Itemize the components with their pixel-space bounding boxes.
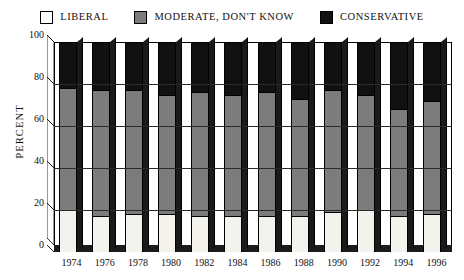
legend-label-liberal: LIBERAL (60, 12, 108, 23)
bar-face-1976 (92, 42, 110, 252)
bar-segment-moderate-1984 (225, 95, 241, 217)
bar-1982[interactable] (191, 42, 209, 252)
x-tick-label-1996: 1996 (426, 258, 446, 268)
chart-bars (54, 42, 452, 252)
x-axis-labels: 1974197619781980198219841986198819901992… (54, 258, 452, 274)
bar-face-1978 (125, 42, 143, 252)
x-tick-label-1974: 1974 (62, 258, 82, 268)
bar-side-1988 (309, 37, 315, 252)
bar-segment-liberal-1996 (424, 214, 440, 252)
x-tick-label-1978: 1978 (128, 258, 148, 268)
bar-1986[interactable] (258, 42, 276, 252)
bar-segment-liberal-1974 (60, 210, 76, 252)
x-tick-label-1994: 1994 (393, 258, 413, 268)
legend-label-conservative: CONSERVATIVE (340, 12, 424, 23)
bar-segment-liberal-1976 (93, 216, 109, 252)
bar-segment-conservative-1994 (391, 42, 407, 109)
bar-segment-moderate-1982 (192, 92, 208, 216)
bar-segment-conservative-1980 (159, 42, 175, 95)
y-axis-title: PERCENT (14, 87, 25, 177)
bar-side-1992 (375, 37, 381, 252)
bar-side-1974 (77, 37, 83, 252)
bar-face-1992 (357, 42, 375, 252)
bar-1974[interactable] (59, 42, 77, 252)
bar-segment-conservative-1978 (126, 42, 142, 90)
bar-1978[interactable] (125, 42, 143, 252)
bar-face-1994 (390, 42, 408, 252)
y-tick-label-60: 60 (34, 114, 44, 124)
y-tick-100 (47, 35, 55, 45)
bar-segment-moderate-1994 (391, 109, 407, 216)
bar-face-1974 (59, 42, 77, 252)
bar-segment-moderate-1996 (424, 101, 440, 214)
chart-legend: LIBERAL MODERATE, DON'T KNOW CONSERVATIV… (0, 6, 464, 28)
y-tick-label-0: 0 (39, 240, 44, 250)
bar-segment-liberal-1982 (192, 216, 208, 252)
legend-item-moderate: MODERATE, DON'T KNOW (134, 11, 294, 24)
bar-segment-moderate-1990 (325, 90, 341, 212)
bar-segment-conservative-1974 (60, 42, 76, 88)
bar-segment-liberal-1994 (391, 216, 407, 252)
bar-1980[interactable] (158, 42, 176, 252)
bar-side-1982 (209, 37, 215, 252)
x-tick-label-1976: 1976 (95, 258, 115, 268)
bar-1994[interactable] (390, 42, 408, 252)
x-tick-label-1990: 1990 (327, 258, 347, 268)
bar-segment-liberal-1984 (225, 216, 241, 252)
bar-side-1978 (143, 37, 149, 252)
bar-1976[interactable] (92, 42, 110, 252)
chart-3d-left-wall (47, 35, 54, 245)
bar-segment-conservative-1992 (358, 42, 374, 95)
x-tick-label-1992: 1992 (360, 258, 380, 268)
bar-1984[interactable] (224, 42, 242, 252)
bar-face-1988 (291, 42, 309, 252)
y-tick-20 (47, 203, 55, 213)
bar-segment-conservative-1982 (192, 42, 208, 92)
bar-segment-liberal-1990 (325, 212, 341, 252)
bar-segment-conservative-1996 (424, 42, 440, 101)
bar-segment-conservative-1976 (93, 42, 109, 90)
bar-segment-moderate-1986 (259, 92, 275, 216)
x-tick-label-1984: 1984 (227, 258, 247, 268)
bar-1992[interactable] (357, 42, 375, 252)
bar-segment-conservative-1990 (325, 42, 341, 90)
bar-side-1980 (176, 37, 182, 252)
bar-segment-moderate-1992 (358, 95, 374, 211)
x-tick-label-1988: 1988 (294, 258, 314, 268)
legend-label-moderate: MODERATE, DON'T KNOW (154, 12, 294, 23)
y-tick-label-100: 100 (29, 30, 44, 40)
x-tick-label-1980: 1980 (161, 258, 181, 268)
y-tick-80 (47, 77, 55, 87)
bar-1996[interactable] (423, 42, 441, 252)
bar-segment-liberal-1986 (259, 216, 275, 252)
bar-segment-moderate-1980 (159, 95, 175, 215)
x-tick-label-1982: 1982 (194, 258, 214, 268)
bar-1988[interactable] (291, 42, 309, 252)
bar-segment-liberal-1992 (358, 210, 374, 252)
bar-segment-liberal-1978 (126, 214, 142, 252)
bar-side-1990 (342, 37, 348, 252)
legend-item-liberal: LIBERAL (40, 11, 108, 24)
y-tick-40 (47, 161, 55, 171)
legend-swatch-liberal-icon (40, 11, 53, 24)
bar-segment-moderate-1976 (93, 90, 109, 216)
y-tick-60 (47, 119, 55, 129)
bar-segment-conservative-1988 (292, 42, 308, 99)
bar-side-1994 (408, 37, 414, 252)
bar-face-1980 (158, 42, 176, 252)
legend-swatch-moderate-icon (134, 11, 147, 24)
y-tick-label-80: 80 (34, 72, 44, 82)
bar-1990[interactable] (324, 42, 342, 252)
y-tick-label-20: 20 (34, 198, 44, 208)
bar-segment-liberal-1980 (159, 214, 175, 252)
y-tick-label-40: 40 (34, 156, 44, 166)
bar-face-1990 (324, 42, 342, 252)
bar-face-1986 (258, 42, 276, 252)
bar-segment-moderate-1988 (292, 99, 308, 217)
bar-side-1976 (110, 37, 116, 252)
bar-face-1996 (423, 42, 441, 252)
chart-plot-area: 020406080100 (54, 42, 452, 252)
bar-side-1984 (242, 37, 248, 252)
bar-side-1986 (276, 37, 282, 252)
y-tick-0 (47, 245, 55, 255)
